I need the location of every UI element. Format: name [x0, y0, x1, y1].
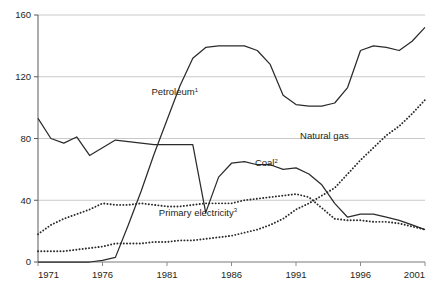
x-tick-label: 1986	[221, 269, 242, 280]
series-label-footnote: 3	[234, 207, 238, 213]
series-line-petroleum	[38, 27, 425, 262]
series-label-text: Primary electricity	[159, 207, 234, 218]
line-chart: 04080120160 1971197619811986199119962001…	[0, 0, 439, 291]
x-tick-label: 1996	[350, 269, 371, 280]
series-label-text: Petroleum	[151, 86, 194, 97]
y-tick-label: 120	[15, 71, 31, 82]
series-label-petroleum: Petroleum1	[151, 86, 198, 97]
series-label-footnote: 1	[195, 87, 199, 93]
y-tick-label: 80	[20, 133, 31, 144]
y-tick-label: 0	[26, 256, 31, 267]
series-label-footnote: 2	[274, 158, 278, 164]
x-tick-label: 1971	[38, 269, 59, 280]
series-label-primary-electricity: Primary electricity3	[159, 207, 238, 218]
series-label-text: Natural gas	[300, 130, 349, 141]
x-axis-ticks: 1971197619811986199119962001	[38, 262, 425, 280]
x-tick-label: 1976	[92, 269, 113, 280]
x-tick-label: 2001	[404, 269, 425, 280]
y-tick-label: 160	[15, 9, 31, 20]
series-label-text: Coal	[255, 157, 275, 168]
y-axis-ticks: 04080120160	[15, 9, 38, 267]
gridlines-group	[38, 15, 425, 262]
x-tick-label: 1991	[285, 269, 306, 280]
chart-canvas: 04080120160 1971197619811986199119962001…	[0, 0, 439, 291]
series-paths-group	[38, 27, 425, 262]
series-line-natural-gas	[38, 100, 425, 251]
y-tick-label: 40	[20, 195, 31, 206]
series-label-natural-gas: Natural gas	[300, 130, 349, 141]
x-tick-label: 1981	[156, 269, 177, 280]
